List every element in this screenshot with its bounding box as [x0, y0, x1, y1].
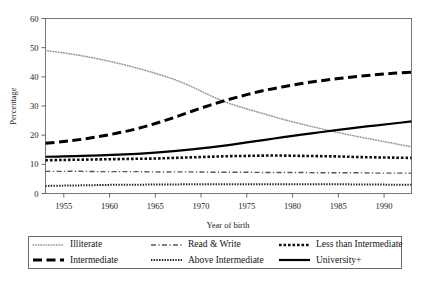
y-tick-label: 20	[30, 130, 39, 140]
y-tick-label: 0	[34, 189, 38, 199]
fine-dotted-swatch	[32, 240, 65, 250]
series-lines	[46, 51, 412, 186]
dense-dotted-swatch	[150, 255, 183, 265]
x-axis-title: Year of birth	[206, 220, 250, 230]
x-axis: 19551960196519701975198019851990	[55, 194, 392, 211]
x-tick-label: 1965	[147, 201, 164, 211]
y-axis-title: Percentage	[8, 87, 18, 125]
x-tick-label: 1975	[238, 201, 255, 211]
series-line	[46, 184, 412, 186]
legend-label: Read & Write	[188, 240, 241, 250]
x-tick-label: 1980	[284, 201, 301, 211]
x-tick-label: 1985	[330, 201, 347, 211]
y-axis: 0102030405060	[30, 14, 46, 199]
dash-dot-swatch	[150, 240, 183, 250]
y-tick-label: 50	[30, 43, 39, 53]
thick-dotted-swatch	[278, 240, 311, 250]
legend-label: Less than Intermediate	[316, 240, 403, 250]
legend-item: Read & Write	[150, 237, 278, 253]
series-line	[46, 171, 412, 173]
long-dash-swatch	[32, 255, 65, 265]
caption-strip	[0, 272, 432, 283]
x-tick-label: 1970	[193, 201, 210, 211]
x-tick-label: 1990	[376, 201, 393, 211]
chart-legend: IlliterateRead & WriteLess than Intermed…	[28, 236, 402, 269]
legend-item: University+	[278, 253, 406, 269]
y-tick-label: 40	[30, 72, 39, 82]
x-tick-label: 1960	[101, 201, 118, 211]
y-tick-label: 60	[30, 14, 39, 24]
series-line	[46, 72, 412, 143]
legend-label: University+	[316, 256, 361, 266]
figure-container: 0102030405060 19551960196519701975198019…	[0, 0, 432, 283]
x-tick-label: 1955	[55, 201, 72, 211]
series-line	[46, 121, 412, 156]
legend-label: Illiterate	[70, 240, 102, 250]
legend-item: Intermediate	[32, 253, 150, 269]
y-tick-label: 30	[30, 101, 39, 111]
legend-item: Illiterate	[32, 237, 150, 253]
solid-swatch	[278, 255, 311, 265]
legend-label: Above Intermediate	[188, 256, 264, 266]
legend-item: Less than Intermediate	[278, 237, 406, 253]
plot-frame	[46, 19, 412, 194]
legend-item: Above Intermediate	[150, 253, 278, 269]
y-tick-label: 10	[30, 159, 39, 169]
legend-label: Intermediate	[70, 256, 118, 266]
